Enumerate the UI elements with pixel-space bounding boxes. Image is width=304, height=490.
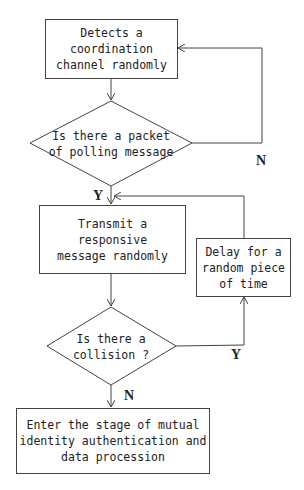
process-detect-channel: Detects a coordination channel randomly	[45, 19, 178, 79]
process-random-delay: Delay for a random piece of time	[196, 238, 291, 297]
label-polling-yes: Y	[93, 188, 103, 204]
process-authentication-stage: Enter the stage of mutual identity authe…	[16, 408, 210, 474]
label-polling-no: N	[256, 153, 266, 169]
label-collision-yes: Y	[231, 347, 241, 363]
label-collision-no: N	[124, 388, 134, 404]
decision-collision-text: Is there a collision ?	[61, 331, 161, 363]
decision-polling-text: Is there a packet of polling message	[46, 128, 176, 160]
process-transmit-message: Transmit a responsive message randomly	[39, 205, 186, 274]
arrow-collision-yes	[176, 297, 244, 346]
arrow-polling-no-loop	[178, 48, 262, 143]
